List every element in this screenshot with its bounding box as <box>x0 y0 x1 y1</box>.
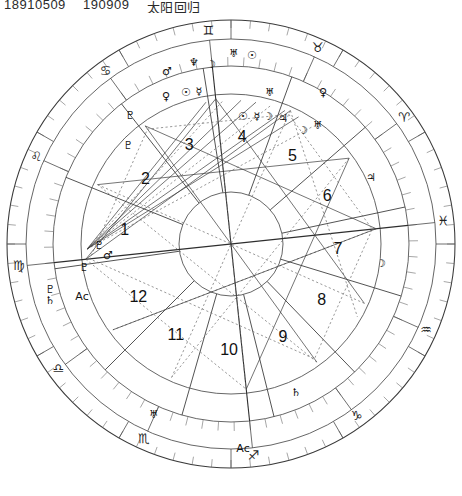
planet-glyph-mercury-7[interactable]: ☿ <box>196 85 203 98</box>
planet-glyph-mercury-11[interactable]: ☿ <box>254 110 261 123</box>
house-number-9[interactable]: 9 <box>278 328 287 345</box>
planet-glyph-sun-6[interactable]: ☉ <box>181 86 191 99</box>
house-number-7[interactable]: 7 <box>333 240 342 257</box>
house-cusp-outer-5 <box>282 77 292 103</box>
sign-tick <box>274 63 276 72</box>
sign-glyph-leo[interactable]: ♌ <box>30 149 42 164</box>
planet-glyph-venus-5[interactable]: ♀ <box>162 90 170 103</box>
chart-canvas[interactable]: ♊♉♈♓♒♑♐♏♎♍♌♋ 123456789101112 ♂♆☽♅☉♀☉☿♀♅☉… <box>0 8 462 496</box>
sign-glyph-aries[interactable]: ♈ <box>398 110 410 125</box>
planet-glyph-pluto-17[interactable]: ♇ <box>123 139 133 152</box>
sign-glyph-cancer[interactable]: ♋ <box>100 63 112 78</box>
aspect-line <box>246 158 349 389</box>
sign-glyph-pisces[interactable]: ♓ <box>438 213 450 228</box>
sign-tick <box>355 109 361 115</box>
planet-glyph-pluto-16[interactable]: ♇ <box>125 109 135 122</box>
aspect-line <box>290 111 357 317</box>
house-number-11[interactable]: 11 <box>168 326 185 343</box>
degree-tick <box>73 86 79 92</box>
sign-glyph-virgo[interactable]: ♍ <box>13 258 25 273</box>
house-number-2[interactable]: 2 <box>141 170 150 187</box>
planet-glyph-ascendant-28[interactable]: Aᴄ <box>236 442 250 455</box>
sign-tick <box>54 183 63 186</box>
planet-glyph-pluto-22[interactable]: ♇ <box>79 261 89 274</box>
planet-glyph-sun-10[interactable]: ☉ <box>238 110 248 123</box>
house-cusp-outer-4 <box>203 68 207 96</box>
house-cusp-11 <box>190 294 217 388</box>
house-number-3[interactable]: 3 <box>185 136 194 153</box>
zodiac-wheel[interactable]: ♊♉♈♓♒♑♐♏♎♍♌♋ 123456789101112 ♂♆☽♅☉♀☉☿♀♅☉… <box>0 8 462 496</box>
sign-tick <box>343 99 349 106</box>
degree-tick <box>287 453 289 461</box>
planet-glyph-ascendant-25[interactable]: Aᴄ <box>75 290 89 303</box>
planet-glyph-mars-21[interactable]: ♂ <box>103 249 113 262</box>
sign-boundary-outer <box>334 50 344 66</box>
sign-tick <box>96 114 102 120</box>
degree-tick <box>59 100 65 105</box>
degree-tick <box>440 300 448 302</box>
planet-glyph-uranus-15[interactable]: ♅ <box>313 119 323 132</box>
sign-tick <box>331 89 336 96</box>
house-cusp-outer-9 <box>335 352 354 372</box>
house-number-6[interactable]: 6 <box>323 187 332 204</box>
house-number-5[interactable]: 5 <box>288 147 297 164</box>
planet-glyph-uranus-9[interactable]: ♅ <box>265 86 275 99</box>
house-cusp-outer-12 <box>105 350 125 370</box>
planet-glyph-sun-4[interactable]: ☉ <box>247 49 257 62</box>
sign-tick <box>243 57 244 66</box>
house-number-8[interactable]: 8 <box>317 291 326 308</box>
degree-tick <box>370 409 375 415</box>
degree-tick <box>269 23 270 31</box>
planet-glyph-venus-8[interactable]: ♀ <box>319 86 327 99</box>
sign-divider <box>44 161 69 172</box>
degree-tick <box>305 447 308 455</box>
sign-glyph-gemini[interactable]: ♊ <box>203 23 215 38</box>
sign-boundary-outer <box>409 132 425 142</box>
house-number-12[interactable]: 12 <box>129 288 147 305</box>
planet-glyph-saturn-27[interactable]: ♄ <box>291 386 301 399</box>
planet-glyph-uranus-3[interactable]: ♅ <box>229 47 239 60</box>
degree-tick <box>384 86 390 92</box>
planet-glyph-moon-12[interactable]: ☽ <box>263 110 273 123</box>
sign-glyph-aquarius[interactable]: ♒ <box>420 322 432 337</box>
sign-tick <box>391 162 399 166</box>
sign-divider <box>394 316 419 327</box>
planet-glyph-jupiter-18[interactable]: ♃ <box>366 171 376 184</box>
degree-tick <box>10 205 18 206</box>
sign-tick <box>369 356 376 362</box>
aspect-line <box>98 158 349 184</box>
sign-divider <box>303 57 314 82</box>
planet-glyph-moon-19[interactable]: ☽ <box>376 257 386 270</box>
planet-glyph-moon-14[interactable]: ☽ <box>298 124 308 137</box>
house-cusp-8 <box>281 259 375 288</box>
aspect-line <box>86 259 246 389</box>
house-number-10[interactable]: 10 <box>220 341 238 358</box>
degree-tick <box>173 28 175 36</box>
degree-tick <box>434 167 442 170</box>
degree-tick <box>87 72 92 78</box>
house-number-4[interactable]: 4 <box>238 128 247 145</box>
degree-tick <box>87 409 92 415</box>
sign-glyph-taurus[interactable]: ♉ <box>312 40 324 55</box>
degree-tick <box>154 34 157 42</box>
sign-tick <box>186 417 188 426</box>
planet-glyph-neptune-1[interactable]: ♆ <box>189 56 199 69</box>
degree-tick <box>396 100 402 105</box>
planet-glyph-mars-0[interactable]: ♂ <box>162 65 172 78</box>
sign-glyph-libra[interactable]: ♎ <box>52 361 64 376</box>
degree-tick <box>250 21 251 29</box>
planet-glyph-jupiter-13[interactable]: ♃ <box>278 112 288 125</box>
degree-tick <box>192 23 193 31</box>
sign-glyph-capricorn[interactable]: ♑ <box>351 408 363 423</box>
sign-tick <box>44 231 53 232</box>
sign-glyph-scorpio[interactable]: ♏ <box>138 431 150 446</box>
sign-tick <box>126 392 131 399</box>
planet-glyph-uranus-26[interactable]: ♅ <box>149 408 159 421</box>
house-number-1[interactable]: 1 <box>120 221 129 238</box>
planet-glyph-saturn-24[interactable]: ♄ <box>45 294 55 307</box>
sign-tick <box>387 330 395 334</box>
house-cusp-outer-6 <box>344 127 365 145</box>
degree-tick <box>408 368 415 373</box>
sign-boundary-outer <box>119 422 129 438</box>
planet-glyph-moon-2[interactable]: ☽ <box>206 58 216 71</box>
